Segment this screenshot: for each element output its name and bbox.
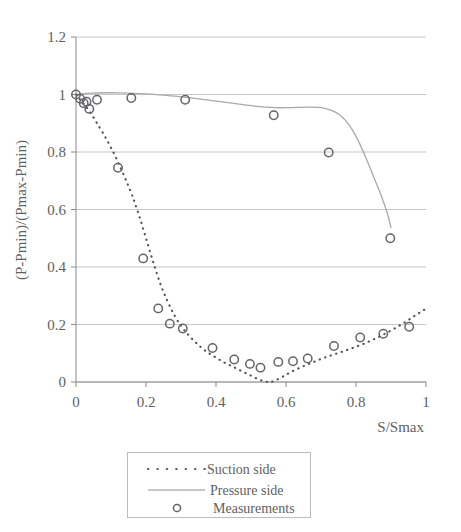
measurement-markers (72, 90, 414, 372)
measurement-point (139, 254, 147, 262)
y-tick-label: 1 (59, 87, 67, 103)
legend-entry-pressure-side: Pressure side (148, 483, 284, 498)
x-tick-label: 0.6 (277, 394, 296, 410)
y-tick-labels: 00.20.40.60.811.2 (47, 29, 66, 390)
x-tick-labels: 00.20.40.60.81 (72, 394, 430, 410)
chart-figure: 00.20.40.60.811.2 00.20.40.60.81 (P-Pmin… (0, 0, 461, 532)
measurement-point (325, 148, 333, 156)
legend-entry-suction-side: Suction side (148, 462, 276, 477)
measurement-point (386, 234, 394, 242)
measurement-point (256, 363, 264, 371)
y-tick-label: 0 (59, 374, 67, 390)
y-axis-title: (P-Pmin)/(Pmax-Pmin) (13, 140, 30, 280)
series-pressure-side (76, 93, 391, 228)
measurement-point (289, 357, 297, 365)
measurement-point (230, 355, 238, 363)
x-axis-title: S/Smax (377, 419, 424, 435)
y-tick-label: 1.2 (47, 29, 66, 45)
x-tick-label: 1 (422, 394, 430, 410)
tick-marks (71, 37, 426, 387)
measurement-point (274, 358, 282, 366)
measurement-point (154, 304, 162, 312)
measurement-point (304, 354, 312, 362)
measurement-point (270, 111, 278, 119)
measurement-point (356, 333, 364, 341)
measurement-point (179, 324, 187, 332)
y-tick-label: 0.8 (47, 144, 66, 160)
measurement-point (330, 342, 338, 350)
pressure-distribution-chart: 00.20.40.60.811.2 00.20.40.60.81 (P-Pmin… (0, 0, 461, 532)
legend-label-suction-side: Suction side (207, 462, 276, 477)
measurement-point (379, 330, 387, 338)
measurement-point (208, 344, 216, 352)
legend-label-measurements: Measurements (213, 501, 295, 516)
measurement-point (93, 95, 101, 103)
measurement-point (127, 94, 135, 102)
legend: Suction side Pressure side Measurements (128, 453, 311, 518)
x-tick-label: 0.4 (207, 394, 226, 410)
legend-swatch-measurement-marker (173, 504, 180, 511)
measurement-point (405, 323, 413, 331)
legend-label-pressure-side: Pressure side (210, 483, 284, 498)
gridlines (76, 37, 426, 382)
measurement-point (246, 360, 254, 368)
y-tick-label: 0.2 (47, 317, 66, 333)
y-tick-label: 0.4 (47, 259, 66, 275)
x-tick-label: 0 (72, 394, 80, 410)
legend-entry-measurements: Measurements (173, 501, 294, 516)
measurement-point (166, 319, 174, 327)
series-suction-side (76, 95, 426, 383)
x-tick-label: 0.8 (347, 394, 366, 410)
y-tick-label: 0.6 (47, 202, 66, 218)
x-tick-label: 0.2 (137, 394, 156, 410)
